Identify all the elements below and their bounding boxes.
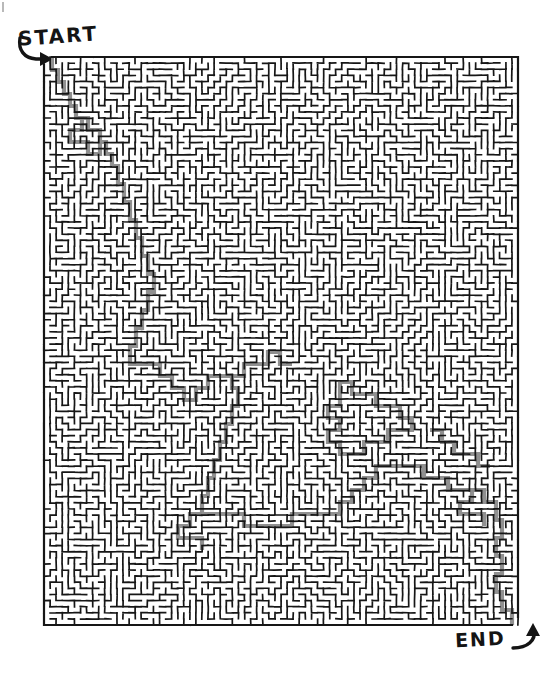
maze-canvas bbox=[0, 0, 549, 675]
maze-walls bbox=[44, 57, 518, 625]
end-arrow-icon bbox=[513, 623, 540, 648]
start-arrow-icon bbox=[20, 38, 53, 66]
maze-page: START END bbox=[0, 0, 549, 675]
